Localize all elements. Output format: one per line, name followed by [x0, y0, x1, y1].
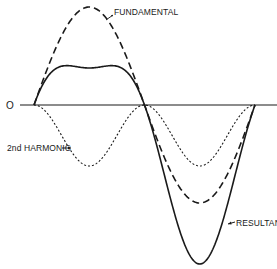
- fundamental-label: FUNDAMENTAL: [114, 7, 178, 17]
- waveform-diagram: O FUNDAMENTAL 2nd HARMONIC RESULTANT: [0, 0, 277, 269]
- origin-label: O: [6, 100, 14, 111]
- resultant-leader-arrow: [228, 222, 235, 225]
- resultant-label: RESULTANT: [236, 218, 277, 228]
- fundamental-leader-arrow: [106, 15, 113, 20]
- second-harmonic-label: 2nd HARMONIC: [7, 143, 71, 153]
- second-harmonic-curve: [34, 105, 255, 166]
- resultant-curve: [34, 66, 255, 264]
